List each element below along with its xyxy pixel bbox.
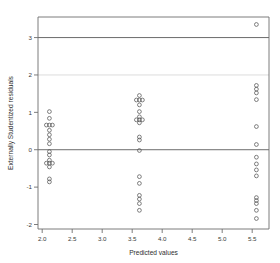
data-point (138, 193, 142, 197)
data-point (48, 137, 52, 141)
x-tick-label: 2.5 (68, 235, 77, 242)
y-tick-label: -1 (26, 183, 32, 190)
data-point (48, 133, 52, 137)
data-point (138, 110, 142, 114)
data-point (255, 143, 259, 147)
data-point (255, 217, 259, 221)
reference-lines-group (38, 38, 269, 150)
data-point (138, 94, 142, 98)
data-point (48, 110, 52, 114)
y-tick-label: 1 (29, 109, 33, 116)
scatter-plot-canvas: 2.02.53.03.54.04.55.05.5 -2-10123 Predic… (0, 0, 280, 263)
y-tick-label: 0 (29, 146, 33, 153)
data-point (138, 208, 142, 212)
plot-frame (38, 17, 269, 229)
data-point (255, 91, 259, 95)
data-point (138, 197, 142, 201)
data-point (255, 98, 259, 102)
data-point (48, 116, 52, 120)
data-points-group (45, 23, 259, 221)
data-point (48, 128, 52, 132)
data-point (255, 162, 259, 166)
x-tick-label: 4.5 (188, 235, 197, 242)
x-axis-ticks: 2.02.53.03.54.04.55.05.5 (38, 229, 257, 242)
data-point (48, 165, 52, 169)
y-tick-label: -2 (26, 221, 32, 228)
data-point (255, 155, 259, 159)
x-axis-title: Predicted values (129, 249, 178, 256)
data-point (255, 84, 259, 88)
data-point (138, 181, 142, 185)
data-point (255, 168, 259, 172)
data-point (255, 208, 259, 212)
x-tick-label: 2.0 (38, 235, 47, 242)
data-point (138, 103, 142, 107)
x-tick-label: 5.0 (218, 235, 227, 242)
x-tick-label: 5.5 (248, 235, 257, 242)
data-point (255, 87, 259, 91)
data-point (255, 23, 259, 27)
data-point (138, 149, 142, 153)
residual-scatter-figure: 2.02.53.03.54.04.55.05.5 -2-10123 Predic… (0, 0, 280, 263)
data-point (138, 175, 142, 179)
data-point (48, 142, 52, 146)
data-point (255, 174, 259, 178)
data-point (138, 202, 142, 206)
y-tick-label: 3 (29, 34, 33, 41)
y-tick-label: 2 (29, 71, 33, 78)
x-tick-label: 4.0 (158, 235, 167, 242)
x-tick-label: 3.5 (128, 235, 137, 242)
y-axis-ticks: -2-10123 (26, 34, 38, 228)
data-point (255, 125, 259, 129)
x-tick-label: 3.0 (98, 235, 107, 242)
y-axis-title: Externally Studentized residuals (7, 75, 15, 170)
